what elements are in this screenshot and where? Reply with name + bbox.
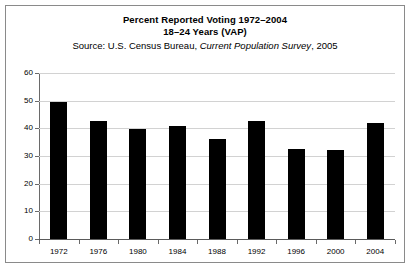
bar-2000 — [327, 150, 344, 239]
x-axis-tick-label: 1984 — [158, 247, 198, 256]
y-axis-tick-label: 30 — [7, 152, 33, 160]
x-axis-tick-label: 1976 — [79, 247, 119, 256]
gridline-0 — [39, 239, 395, 240]
bar-1972 — [50, 102, 67, 239]
x-tick-mark — [79, 240, 80, 244]
x-tick-mark — [118, 240, 119, 244]
x-axis-tick-label: 1996 — [276, 247, 316, 256]
x-tick-mark — [276, 240, 277, 244]
plot-area — [39, 73, 395, 239]
bar-1992 — [248, 121, 265, 239]
x-axis-tick-label: 1992 — [237, 247, 277, 256]
y-tick-mark-50 — [35, 101, 39, 102]
y-tick-mark-20 — [35, 184, 39, 185]
x-axis-tick-label: 2004 — [355, 247, 395, 256]
y-tick-mark-10 — [35, 211, 39, 212]
y-tick-mark-30 — [35, 156, 39, 157]
y-tick-mark-40 — [35, 128, 39, 129]
x-tick-mark — [355, 240, 356, 244]
y-axis-tick-label: 0 — [7, 235, 33, 243]
x-tick-mark — [395, 240, 396, 244]
bar-1980 — [129, 129, 146, 239]
chart-figure: Percent Reported Voting 1972–2004 18–24 … — [5, 5, 405, 263]
y-axis-tick-label: 40 — [7, 124, 33, 132]
y-axis-tick-label: 20 — [7, 180, 33, 188]
bar-1988 — [209, 139, 226, 239]
x-tick-mark — [316, 240, 317, 244]
x-axis-tick-label: 1980 — [118, 247, 158, 256]
bar-2004 — [367, 123, 384, 239]
y-axis-labels: 0102030405060 — [6, 6, 33, 262]
x-axis-tick-label: 1988 — [197, 247, 237, 256]
bar-1984 — [169, 126, 186, 239]
x-axis-tick-label: 1972 — [39, 247, 79, 256]
plot-wrapper: 0102030405060 19721976198019841988199219… — [6, 6, 404, 262]
x-tick-mark — [158, 240, 159, 244]
y-axis-tick-label: 50 — [7, 97, 33, 105]
bar-1976 — [90, 121, 107, 239]
y-tick-mark-60 — [35, 73, 39, 74]
x-tick-mark — [237, 240, 238, 244]
y-axis-tick-label: 60 — [7, 69, 33, 77]
x-tick-mark — [197, 240, 198, 244]
x-axis-tick-label: 2000 — [316, 247, 356, 256]
gridline-60 — [39, 73, 395, 74]
bar-1996 — [288, 149, 305, 239]
x-tick-mark — [39, 240, 40, 244]
gridline-50 — [39, 101, 395, 102]
y-axis-tick-label: 10 — [7, 207, 33, 215]
